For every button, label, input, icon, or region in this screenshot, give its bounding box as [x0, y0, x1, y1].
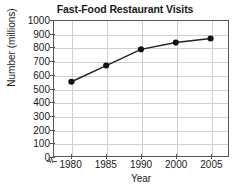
y-axis-tick-label: 800 [20, 42, 50, 53]
y-axis-tick-mark [50, 143, 55, 144]
y-axis-tick-label: 200 [20, 124, 50, 135]
data-point-marker [68, 79, 74, 85]
y-axis-tick-mark [50, 130, 55, 131]
y-axis-tick-mark [50, 102, 55, 103]
data-point-marker [208, 35, 214, 41]
x-axis-title: Year [53, 173, 229, 184]
y-axis-tick-mark [50, 75, 55, 76]
y-axis-tick-label: 700 [20, 56, 50, 67]
data-point-marker [173, 40, 179, 46]
y-axis-tick-mark [50, 116, 55, 117]
x-axis-tick-label: 2005 [191, 159, 231, 170]
x-axis-tick-mark [141, 154, 142, 159]
x-axis-tick-mark [71, 154, 72, 159]
y-axis-tick-mark [50, 89, 55, 90]
x-axis-tick-mark [176, 154, 177, 159]
y-axis-tick-label: 1000 [20, 15, 50, 26]
data-point-marker [103, 62, 109, 68]
y-axis-tick-label: 400 [20, 97, 50, 108]
y-axis-tick-mark [50, 61, 55, 62]
line-chart: Fast-Food Restaurant Visits Number (mill… [0, 0, 250, 192]
data-series-layer [54, 21, 228, 156]
series-line [71, 39, 210, 82]
x-axis-tick-mark [211, 154, 212, 159]
y-axis-tick-label: 600 [20, 69, 50, 80]
y-axis-tick-label: 500 [20, 83, 50, 94]
x-axis-tick-labels: 19801985199020002005 [53, 159, 229, 173]
y-axis-tick-label: 300 [20, 110, 50, 121]
chart-title: Fast-Food Restaurant Visits [0, 3, 250, 15]
y-axis-tick-label: 900 [20, 28, 50, 39]
x-axis-tick-label: 1985 [86, 159, 126, 170]
x-axis-tick-label: 1990 [121, 159, 161, 170]
data-point-marker [138, 46, 144, 52]
x-axis-tick-label: 2000 [156, 159, 196, 170]
plot-area [53, 20, 229, 157]
y-axis-tick-labels: 01002003004005006007008009001000 [18, 20, 50, 157]
x-axis-tick-mark [106, 154, 107, 159]
y-axis-tick-label: 100 [20, 138, 50, 149]
axis-break-icon [44, 150, 60, 164]
y-axis-tick-mark [50, 20, 55, 21]
y-axis-title: Number (millions) [6, 0, 17, 108]
y-axis-tick-mark [50, 34, 55, 35]
y-axis-tick-mark [50, 47, 55, 48]
